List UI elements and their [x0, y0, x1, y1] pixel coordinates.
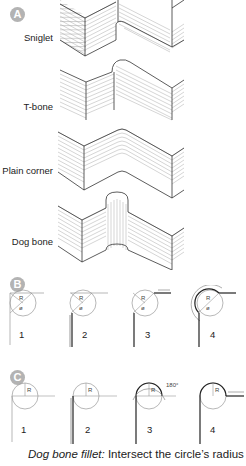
svg-text:R: R [27, 387, 32, 393]
caption-text: Intersect the circle’s radius [105, 448, 244, 460]
c-step-3: 3 [147, 424, 152, 435]
svg-text:R: R [19, 295, 24, 301]
plain-corner-diagram [58, 129, 184, 198]
svg-text:R: R [206, 295, 211, 301]
svg-text:ø: ø [141, 305, 145, 311]
dog-bone-diagram [58, 192, 184, 270]
c-step-3-diagram: R 180° [133, 382, 179, 444]
c-step-4: 4 [210, 424, 215, 435]
b-step-3-diagram: Rø [132, 290, 171, 347]
c-step-2: 2 [85, 424, 90, 435]
svg-text:ø: ø [19, 305, 23, 311]
b-step-1: 1 [19, 329, 24, 340]
b-step-4: 4 [210, 329, 215, 340]
svg-text:ø: ø [79, 305, 83, 311]
figure-caption: Dog bone fillet: Intersect the circle’s … [28, 448, 244, 460]
b-step-3: 3 [145, 329, 150, 340]
caption-italic: Dog bone fillet: [28, 448, 105, 460]
c-step-1: 1 [21, 424, 26, 435]
svg-text:R: R [79, 295, 84, 301]
svg-text:R: R [151, 387, 156, 393]
c-step-4-diagram: R [200, 383, 244, 444]
svg-text:R: R [88, 387, 93, 393]
c-step-2-diagram: R [71, 383, 117, 444]
svg-text:ø: ø [206, 305, 210, 311]
b-step-2: 2 [82, 329, 87, 340]
c-step-1-diagram: R [12, 383, 55, 442]
svg-text:R: R [141, 295, 146, 301]
c-angle-label: 180° [166, 382, 179, 388]
b-step-1-diagram: Rø [10, 290, 44, 345]
sniglet-diagram [58, 0, 184, 56]
b-step-2-diagram: Rø [70, 290, 108, 347]
joint-diagrams [0, 0, 246, 270]
svg-text:R: R [215, 387, 220, 393]
t-bone-diagram [60, 60, 184, 120]
